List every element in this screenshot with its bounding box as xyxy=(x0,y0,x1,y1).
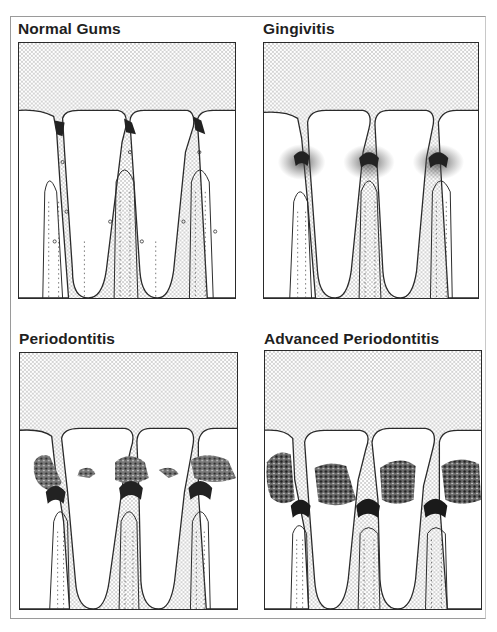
panel-title-normal-gums: Normal Gums xyxy=(18,20,121,38)
teeth-illustration-gingivitis xyxy=(264,43,478,298)
teeth-illustration-normal xyxy=(19,43,235,298)
panel-advanced-periodontitis: Advanced Periodontitis xyxy=(264,330,484,612)
illustration-gingivitis xyxy=(263,42,479,299)
illustration-periodontitis xyxy=(19,352,238,610)
teeth-illustration-periodontitis xyxy=(20,353,237,609)
panel-periodontitis: Periodontitis xyxy=(19,330,239,612)
panel-normal-gums: Normal Gums xyxy=(18,20,238,300)
panel-title-gingivitis: Gingivitis xyxy=(263,20,335,38)
panel-title-advanced-periodontitis: Advanced Periodontitis xyxy=(264,330,439,348)
panel-gingivitis: Gingivitis xyxy=(263,20,481,300)
panel-title-periodontitis: Periodontitis xyxy=(19,330,115,348)
illustration-advanced-periodontitis xyxy=(264,350,482,610)
illustration-normal-gums xyxy=(18,42,236,299)
teeth-illustration-advanced-periodontitis xyxy=(265,351,481,609)
